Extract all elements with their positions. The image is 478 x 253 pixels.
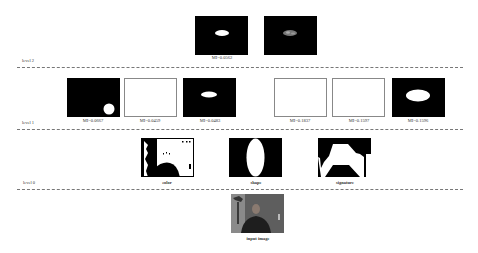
level2-masked-face-image [264,16,317,55]
level2-mi-caption: MI=0.0562 [192,55,252,60]
level-divider-2 [17,67,463,68]
level1-image-1 [67,78,120,117]
level0-color-image [141,138,194,177]
level1-caption-3: MI=0.0483 [180,118,240,123]
level0-shape-image [229,138,282,177]
level1-caption-6: MI=0.1596 [388,118,448,123]
level1-image-3 [183,78,236,117]
level-0-label: level 0 [23,180,35,185]
level-divider-1 [17,129,463,130]
level2-fused-mask-image [195,16,248,55]
level1-caption-4: MI=0.1837 [270,118,330,123]
input-image-caption: input image [228,236,288,241]
level0-color-caption: color [137,180,197,185]
level1-caption-1: MI=0.0667 [63,118,123,123]
level0-shape-caption: shape [226,180,286,185]
level1-image-6 [392,78,445,117]
level1-image-2 [124,78,177,117]
level1-image-5 [332,78,385,117]
input-image [231,194,284,233]
level0-signature-image [318,138,371,177]
level-divider-0 [17,189,463,190]
level-2-label: level 2 [22,58,34,63]
level-1-label: level 1 [22,120,34,125]
level0-signature-caption: signature [315,180,375,185]
level1-caption-2: MI=0.0459 [120,118,180,123]
level1-image-4 [274,78,327,117]
level1-caption-5: MI=0.1597 [329,118,389,123]
